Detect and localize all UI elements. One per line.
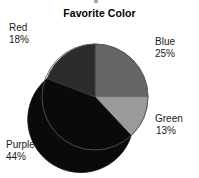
pie-label-green: Green 13% bbox=[155, 113, 183, 137]
pie-label-green-value: 13% bbox=[155, 125, 183, 137]
pie-label-purple: Purple 44% bbox=[6, 139, 36, 163]
pie-label-red-name: Red bbox=[9, 22, 33, 34]
pie-label-blue-name: Blue bbox=[155, 36, 175, 48]
pie-label-red-value: 18% bbox=[9, 34, 33, 46]
pie-label-blue-value: 25% bbox=[155, 48, 175, 60]
pie-chart-figure: Favorite Color Red 18% Blue 25% Green 13… bbox=[0, 0, 199, 178]
pie-slice-blue bbox=[95, 44, 148, 97]
pie-label-red: Red 18% bbox=[9, 22, 33, 46]
pie-label-purple-value: 44% bbox=[6, 151, 36, 163]
pie-label-purple-name: Purple bbox=[6, 139, 36, 151]
pie-label-green-name: Green bbox=[155, 113, 183, 125]
pie-label-blue: Blue 25% bbox=[155, 36, 175, 60]
